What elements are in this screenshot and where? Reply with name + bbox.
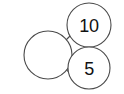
whole-circle-empty[interactable] (24, 31, 72, 79)
part-value-bottom: 5 (84, 59, 94, 79)
number-bond-diagram: 10 5 (0, 0, 124, 94)
part-value-top: 10 (79, 16, 99, 36)
